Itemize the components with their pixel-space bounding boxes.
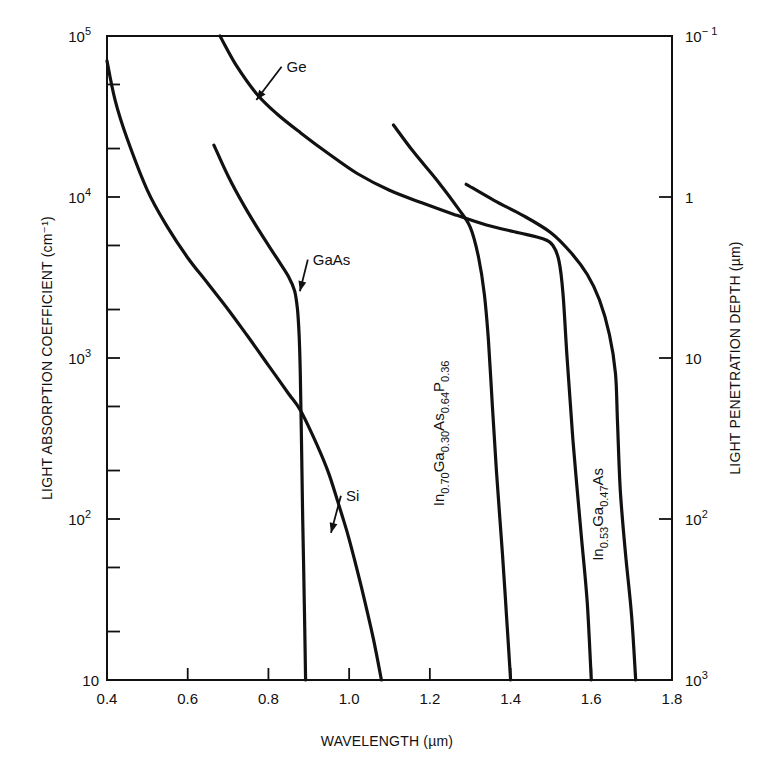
y-axis-ticks: 10102103104105 — [68, 25, 120, 689]
x-tick-label: 1.0 — [339, 690, 360, 707]
y-tick-label: 104 — [68, 186, 91, 206]
curve-label-in0-53ga0-47as: In0.53Ga0.47As — [589, 468, 610, 561]
y2-tick-label: 1 — [685, 189, 693, 206]
x-tick-label: 0.8 — [258, 690, 279, 707]
y2-tick-label: 10− 1 — [685, 25, 717, 45]
y2-axis-title: LIGHT PENETRATION DEPTH (µm) — [727, 241, 743, 474]
curve-in0-53ga0-47as — [466, 184, 636, 680]
absorption-chart: 0.40.60.81.01.21.41.61.8 10102103104105 … — [0, 0, 769, 769]
y2-axis-ticks: 10− 1110102103 — [659, 25, 717, 689]
x-tick-label: 1.6 — [581, 690, 602, 707]
x-tick-label: 1.8 — [662, 690, 683, 707]
y2-tick-label: 103 — [685, 669, 708, 689]
y-tick-label: 103 — [68, 347, 91, 367]
curve-in0-70ga0-30as0-64p0-36 — [394, 125, 511, 680]
y2-tick-label: 10 — [685, 350, 702, 367]
curve-label-si: Si — [346, 487, 359, 504]
x-axis-ticks: 0.40.60.81.01.21.41.61.8 — [97, 668, 683, 707]
data-curves — [107, 36, 636, 680]
x-tick-label: 0.6 — [177, 690, 198, 707]
curve-labels: SiGaAsGeIn0.70Ga0.30As0.64P0.36In0.53Ga0… — [256, 58, 609, 561]
curve-label-ge: Ge — [287, 58, 307, 75]
y-tick-label: 105 — [68, 25, 91, 45]
curve-label-gaas: GaAs — [313, 251, 351, 268]
curve-label-in0-70ga0-30as0-64p0-36: In0.70Ga0.30As0.64P0.36 — [430, 361, 451, 507]
curve-gaas — [214, 145, 306, 680]
y-axis-title: LIGHT ABSORPTION COEFFICIENT (cm⁻¹) — [39, 216, 55, 500]
x-tick-label: 0.4 — [97, 690, 118, 707]
arrowhead-icon — [330, 522, 338, 533]
x-axis-title: WAVELENGTH (µm) — [321, 733, 453, 749]
y-tick-label: 102 — [68, 508, 91, 528]
curve-ge — [220, 36, 591, 680]
x-tick-label: 1.4 — [500, 690, 521, 707]
curve-si — [107, 61, 381, 680]
x-tick-label: 1.2 — [419, 690, 440, 707]
y2-tick-label: 102 — [685, 508, 708, 528]
y-tick-label: 10 — [82, 672, 99, 689]
